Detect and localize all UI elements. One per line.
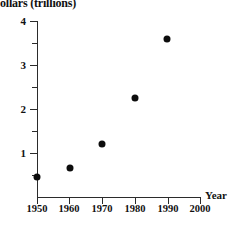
chart-title: ollars (trillions) [0, 0, 76, 11]
x-tick-label-2000: 2000 [190, 203, 211, 214]
x-tick-label-1990: 1990 [158, 203, 179, 214]
x-tick-label-1980: 1980 [125, 203, 146, 214]
y-tick-3 [30, 65, 37, 66]
data-point-1970 [99, 141, 106, 148]
data-point-1950 [34, 174, 41, 181]
y-tick-label-1: 1 [8, 147, 26, 159]
y-tick-4 [30, 21, 37, 22]
data-point-1980 [131, 95, 138, 102]
x-tick-label-1950: 1950 [27, 203, 48, 214]
x-tick-label-1970: 1970 [92, 203, 113, 214]
y-tick-minor-2-5 [32, 87, 37, 88]
y-tick-2 [30, 109, 37, 110]
scatter-chart: ollars (trillions) 4 3 2 1 1950 1960 197… [0, 0, 243, 228]
x-tick-label-1960: 1960 [59, 203, 80, 214]
data-point-1990 [164, 35, 171, 42]
y-tick-minor-3-5 [32, 43, 37, 44]
data-point-1960 [66, 165, 73, 172]
x-axis-label: Year [205, 189, 227, 201]
y-tick-label-2: 2 [8, 103, 26, 115]
y-tick-minor-1-5 [32, 131, 37, 132]
y-axis-line [37, 21, 38, 198]
y-tick-1 [30, 153, 37, 154]
y-tick-label-3: 3 [8, 59, 26, 71]
x-axis-line [37, 197, 201, 198]
y-tick-label-4: 4 [8, 15, 26, 27]
